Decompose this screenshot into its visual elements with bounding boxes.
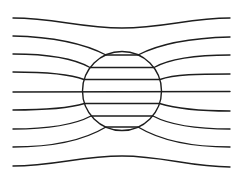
- background: [0, 0, 243, 174]
- field-line-5: [13, 92, 230, 93]
- field-lines-diagram: [0, 0, 243, 174]
